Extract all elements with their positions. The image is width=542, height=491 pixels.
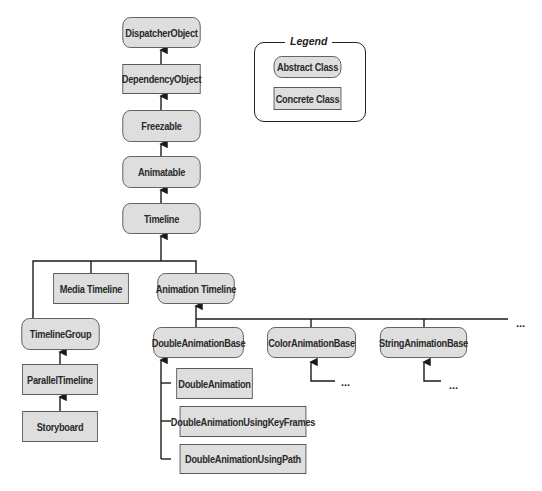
legend-title: Legend — [285, 35, 332, 47]
node-dispatcher-object: DispatcherObject — [122, 17, 200, 48]
node-parallel-timeline: ParallelTimeline — [22, 364, 98, 395]
node-double-animation-using-path: DoubleAnimationUsingPath — [180, 444, 307, 474]
node-timeline-group: TimelineGroup — [21, 318, 99, 350]
node-timeline: Timeline — [122, 203, 200, 234]
node-double-animation-base: DoubleAnimationBase — [153, 327, 244, 358]
ellipsis-more-bases: ... — [516, 318, 525, 328]
node-animation-timeline: Animation Timeline — [157, 273, 234, 304]
node-double-animation-using-keyframes: DoubleAnimationUsingKeyFrames — [180, 406, 307, 437]
node-freezable: Freezable — [122, 110, 200, 142]
ellipsis-string-subclasses: ... — [449, 380, 458, 390]
ellipsis-color-subclasses: ... — [341, 377, 350, 387]
node-color-animation-base: ColorAnimationBase — [267, 327, 356, 358]
legend-concrete-class: Concrete Class — [274, 87, 342, 110]
node-animatable: Animatable — [122, 156, 200, 188]
node-storyboard: Storyboard — [22, 411, 98, 442]
legend-abstract-class: Abstract Class — [274, 56, 342, 78]
node-dependency-object: DependencyObject — [122, 64, 200, 94]
node-string-animation-base: StringAnimationBase — [380, 327, 467, 358]
legend-box: Legend — [254, 42, 366, 122]
node-media-timeline: Media Timeline — [53, 273, 129, 304]
node-double-animation: DoubleAnimation — [176, 368, 253, 399]
